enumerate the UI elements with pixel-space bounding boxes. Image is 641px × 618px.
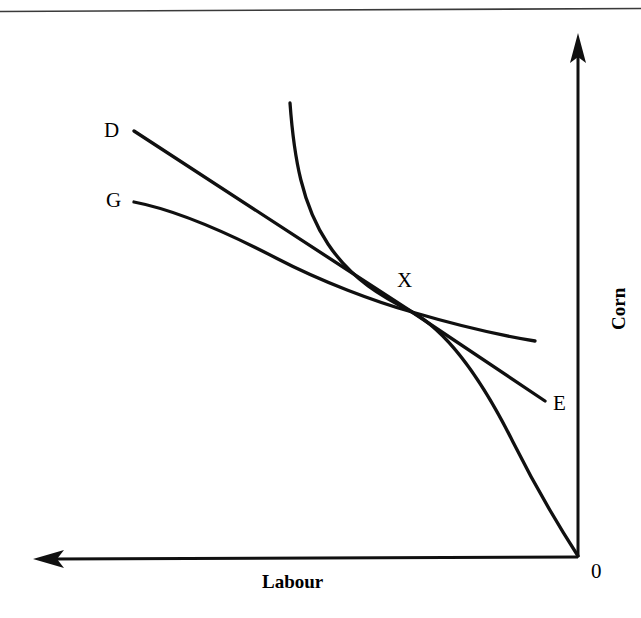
figure-canvas: D G X E 0 Labour Corn xyxy=(0,0,641,618)
point-label-x: X xyxy=(397,270,412,291)
y-axis-label: Corn xyxy=(609,288,628,330)
curve-label-g: G xyxy=(106,190,121,211)
x-axis-label: Labour xyxy=(262,572,323,591)
curve-label-e: E xyxy=(553,393,566,414)
curve-g xyxy=(134,202,535,341)
curve-steep-to-origin xyxy=(290,103,578,556)
curve-label-d: D xyxy=(104,120,119,141)
x-axis-line xyxy=(52,557,578,559)
corn-labour-diagram xyxy=(0,0,641,618)
origin-label: 0 xyxy=(591,561,602,582)
line-d-e xyxy=(134,131,545,401)
page-rule-divider xyxy=(0,9,641,12)
